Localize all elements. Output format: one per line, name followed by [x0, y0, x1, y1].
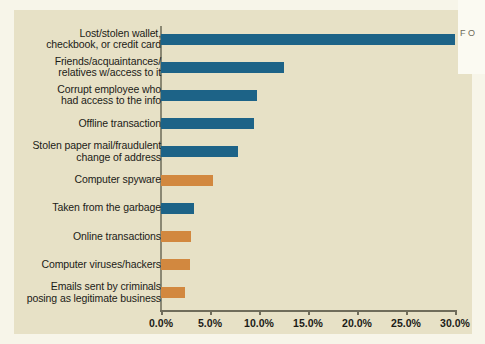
x-axis-tick: [210, 310, 212, 315]
category-label-line: had access to the info: [0, 95, 161, 107]
category-label-line: posing as legitimate business: [0, 293, 161, 305]
scanned-page: Lost/stolen wallet,checkbook, or credit …: [0, 0, 485, 344]
category-label-line: Computer spyware: [0, 174, 161, 186]
bar: [161, 62, 284, 73]
category-label-line: relatives w/access to it: [0, 67, 161, 79]
category-label: Computer viruses/hackers: [0, 259, 161, 271]
bar: [161, 203, 194, 214]
x-axis-tick: [161, 310, 163, 315]
x-axis-tick: [406, 310, 408, 315]
bar: [161, 259, 190, 270]
bar: [161, 118, 254, 129]
category-label: Stolen paper mail/fraudulentchange of ad…: [0, 140, 161, 163]
bar: [161, 34, 455, 45]
page-corner-text: F O: [460, 28, 475, 39]
category-label: Taken from the garbage: [0, 202, 161, 214]
x-axis-tick-label: 30.0%: [425, 317, 485, 329]
chart-panel: Lost/stolen wallet,checkbook, or credit …: [14, 10, 472, 334]
bar: [161, 175, 213, 186]
category-label: Online transactions: [0, 231, 161, 243]
x-axis-tick: [357, 310, 359, 315]
category-label: Lost/stolen wallet,checkbook, or credit …: [0, 28, 161, 51]
bar: [161, 146, 238, 157]
bar: [161, 90, 257, 101]
x-axis-tick: [455, 310, 457, 315]
bar: [161, 231, 191, 242]
category-label: Offline transaction: [0, 118, 161, 130]
category-label: Corrupt employee whohad access to the in…: [0, 84, 161, 107]
category-label-line: change of address: [0, 152, 161, 164]
bar: [161, 287, 185, 298]
category-label: Emails sent by criminalsposing as legiti…: [0, 281, 161, 304]
category-label-line: Offline transaction: [0, 118, 161, 130]
category-label: Computer spyware: [0, 174, 161, 186]
category-label: Friends/acquaintances/relatives w/access…: [0, 56, 161, 79]
x-axis-tick: [259, 310, 261, 315]
bar-chart-plot-area: Lost/stolen wallet,checkbook, or credit …: [14, 10, 472, 334]
category-label-line: checkbook, or credit card: [0, 39, 161, 51]
page-corner-margin: F O: [458, 0, 485, 74]
x-axis-tick: [308, 310, 310, 315]
category-label-line: Computer viruses/hackers: [0, 259, 161, 271]
category-label-line: Taken from the garbage: [0, 202, 161, 214]
category-label-line: Online transactions: [0, 231, 161, 243]
